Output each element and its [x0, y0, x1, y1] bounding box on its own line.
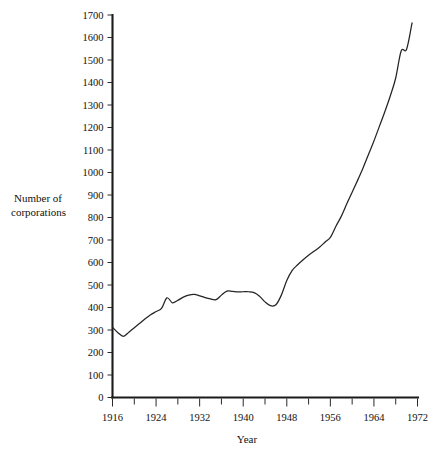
x-tick-label: 1916	[102, 412, 123, 423]
chart-figure: Number of corporations Year 010020030040…	[0, 0, 443, 451]
data-series-group	[113, 23, 413, 336]
y-tick-label: 200	[88, 347, 104, 358]
y-tick-label: 300	[88, 325, 104, 336]
y-axis-ticks: 0100200300400500600700800900100011001200…	[83, 10, 113, 404]
y-tick-label: 1700	[83, 10, 104, 21]
y-tick-label: 100	[88, 370, 104, 381]
x-tick-label: 1924	[146, 412, 168, 423]
y-tick-label: 600	[88, 257, 104, 268]
y-tick-label: 1500	[83, 55, 104, 66]
y-tick-label: 400	[88, 302, 104, 313]
y-tick-label: 1600	[83, 32, 104, 43]
axes-group	[112, 15, 418, 398]
y-tick-label: 1000	[83, 167, 104, 178]
y-tick-label: 1400	[83, 77, 104, 88]
x-tick-label: 1940	[233, 412, 254, 423]
y-axis-label-line1: Number of	[14, 192, 62, 204]
x-tick-label: 1964	[363, 412, 385, 423]
series-line-number-of-corporations	[113, 23, 413, 336]
line-chart-svg: Number of corporations Year 010020030040…	[0, 0, 443, 451]
x-tick-label: 1972	[407, 412, 428, 423]
y-tick-label: 800	[88, 212, 104, 223]
x-axis-ticks: 19161924193219401948195619641972	[102, 399, 428, 423]
y-axis-label-line2: corporations	[11, 206, 66, 218]
x-axis-label: Year	[237, 433, 258, 445]
y-tick-label: 900	[88, 190, 104, 201]
y-tick-label: 700	[88, 235, 104, 246]
x-tick-label: 1956	[320, 412, 341, 423]
x-tick-label: 1948	[276, 412, 297, 423]
y-tick-label: 0	[98, 392, 103, 403]
y-tick-label: 1100	[83, 145, 104, 156]
y-tick-label: 500	[88, 280, 104, 291]
y-tick-label: 1300	[83, 100, 104, 111]
x-tick-label: 1932	[189, 412, 210, 423]
y-tick-label: 1200	[83, 122, 104, 133]
